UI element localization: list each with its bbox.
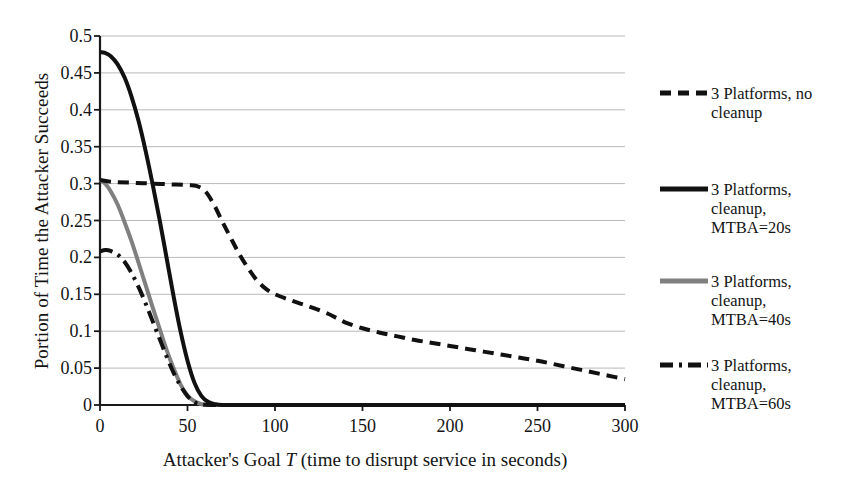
series-line — [100, 180, 625, 405]
axis-ticks — [94, 36, 625, 411]
legend-label-line: cleanup, — [711, 291, 792, 310]
legend-item[interactable]: 3 Platforms,cleanup,MTBA=40s — [660, 272, 846, 329]
legend-item[interactable]: 3 Platforms,cleanup,MTBA=60s — [660, 356, 846, 413]
legend-label-line: 3 Platforms, — [711, 272, 792, 291]
data-series — [100, 52, 625, 405]
legend-label-line: 3 Platforms, — [711, 180, 792, 199]
series-line — [100, 180, 625, 379]
legend-line-swatch-icon — [660, 87, 708, 103]
legend-item-label: 3 Platforms,cleanup,MTBA=60s — [711, 356, 792, 413]
legend-item-label: 3 Platforms,cleanup,MTBA=40s — [711, 272, 792, 329]
legend-line-swatch-icon — [660, 359, 708, 375]
legend-line-swatch-icon — [660, 275, 708, 291]
legend-item[interactable]: 3 Platforms, nocleanup — [660, 84, 846, 122]
plot-area — [0, 0, 846, 499]
legend-label-line: 3 Platforms, no — [711, 84, 812, 103]
legend-label-line: cleanup — [711, 103, 812, 122]
legend-label-line: MTBA=20s — [711, 218, 792, 237]
legend-item-label: 3 Platforms,cleanup,MTBA=20s — [711, 180, 792, 237]
chart-figure: Portion of Time the Attacker Succeeds 0.… — [0, 0, 846, 499]
legend-item-label: 3 Platforms, nocleanup — [711, 84, 812, 122]
series-line — [100, 52, 625, 405]
legend-label-line: cleanup, — [711, 199, 792, 218]
legend-label-line: MTBA=60s — [711, 394, 792, 413]
legend-label-line: 3 Platforms, — [711, 356, 792, 375]
legend-line-swatch-icon — [660, 183, 708, 199]
legend-label-line: MTBA=40s — [711, 310, 792, 329]
legend-label-line: cleanup, — [711, 375, 792, 394]
legend-item[interactable]: 3 Platforms,cleanup,MTBA=20s — [660, 180, 846, 237]
